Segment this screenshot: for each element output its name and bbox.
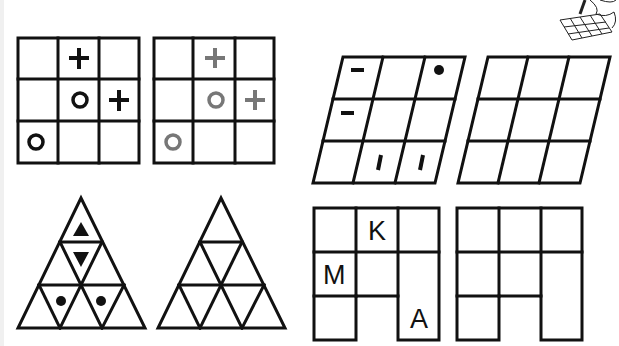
circle-icon <box>29 135 43 149</box>
letter-grid-copy <box>457 208 582 340</box>
letter-grid-original: K M A <box>314 208 439 340</box>
square-grid-original <box>18 38 139 163</box>
circle-icon <box>209 93 223 107</box>
bar-icon <box>378 155 381 170</box>
letter-a: A <box>410 304 428 334</box>
plus-icon <box>205 48 225 68</box>
bar-icon <box>420 155 423 170</box>
dot-icon <box>434 65 444 75</box>
puzzle-canvas: K M A <box>0 0 619 346</box>
triangle-grid-copy <box>158 198 285 328</box>
letter-k: K <box>368 216 386 246</box>
plus-icon <box>245 90 265 110</box>
square-grid-copy <box>154 38 274 163</box>
up-triangle-icon <box>73 222 89 236</box>
slanted-grid-copy <box>458 57 610 183</box>
dot-icon <box>96 296 106 306</box>
letter-m: M <box>323 260 346 290</box>
triangle-grid-original <box>18 198 145 328</box>
down-triangle-icon <box>73 252 89 267</box>
slanted-grid-original <box>313 57 465 183</box>
circle-icon <box>166 135 180 149</box>
dot-icon <box>56 296 66 306</box>
plus-icon <box>69 48 89 69</box>
plus-icon <box>109 90 129 111</box>
hand-drawing-grid-icon <box>560 0 616 40</box>
circle-icon <box>73 93 87 107</box>
